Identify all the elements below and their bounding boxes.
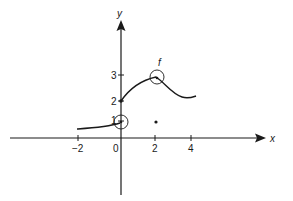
x-tick-label-4: 4 — [188, 143, 194, 154]
dot-at-2-3 — [156, 77, 159, 80]
x-tick-label-2: 2 — [152, 143, 158, 154]
function-label-f: f — [158, 57, 162, 68]
dot-at-0-1 — [120, 121, 123, 124]
y-axis-label: y — [116, 8, 123, 19]
function-curve-right — [121, 77, 196, 101]
y-tick-label-3: 3 — [111, 70, 117, 81]
x-axis-label: x — [269, 133, 276, 144]
function-graph: x y −2 0 2 4 1 2 3 f — [0, 0, 293, 201]
x-tick-label-0: 0 — [113, 143, 119, 154]
isolated-point-2-1 — [154, 120, 157, 123]
x-tick-label-minus-2: −2 — [72, 143, 84, 154]
y-tick-label-2: 2 — [111, 96, 117, 107]
